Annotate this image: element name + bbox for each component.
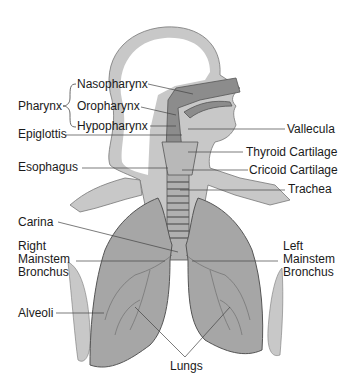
label-alveoli: Alveoli [18, 307, 53, 320]
label-vallecula: Vallecula [287, 123, 335, 136]
label-lungs: Lungs [170, 360, 203, 373]
label-thyroid-cartilage: Thyroid Cartilage [246, 146, 337, 159]
label-epiglottis: Epiglottis [18, 128, 67, 141]
respiratory-diagram: Nasopharynx Pharynx Oropharynx Hypophary… [0, 0, 348, 385]
label-pharynx: Pharynx [18, 100, 62, 113]
label-trachea: Trachea [288, 183, 332, 196]
label-carina: Carina [18, 216, 53, 229]
label-right-mainstem-bronchus: Right Mainstem Bronchus [18, 240, 70, 279]
label-left-mainstem-bronchus: Left Mainstem Bronchus [283, 240, 335, 279]
label-esophagus: Esophagus [18, 161, 78, 174]
label-nasopharynx: Nasopharynx [77, 78, 148, 91]
label-cricoid-cartilage: Cricoid Cartilage [249, 164, 338, 177]
label-oropharynx: Oropharynx [77, 100, 140, 113]
pharynx-brace [63, 84, 76, 127]
label-hypopharynx: Hypopharynx [77, 120, 148, 133]
